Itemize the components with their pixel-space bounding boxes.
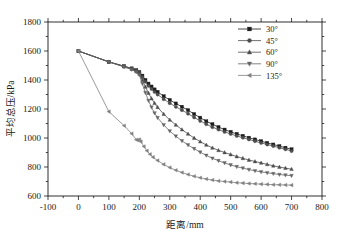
series-45deg [77,49,293,152]
y-axis-title: 平均总压/kPa [5,80,16,138]
legend-label: 30° [266,24,278,34]
series-layer [77,49,294,187]
series-30deg [77,49,293,150]
x-tick-label: 0 [76,202,81,212]
y-axis-ticks [44,22,326,196]
x-tick-label: 200 [133,202,147,212]
y-tick-label: 1800 [23,17,42,27]
plot-frame [48,22,322,196]
x-tick-label: 500 [224,202,238,212]
x-tick-label: 400 [193,202,207,212]
legend-item-45deg[interactable]: 45° [238,36,278,46]
total-pressure-vs-distance-chart: -1000100200300400500600700800 6008001000… [0,0,345,238]
chart-container: -1000100200300400500600700800 6008001000… [0,0,345,238]
y-tick-label: 1000 [23,133,42,143]
legend-item-60deg[interactable]: 60° [238,47,278,57]
x-tick-label: 100 [102,202,116,212]
y-tick-label: 600 [28,191,42,201]
legend-item-30deg[interactable]: 30° [238,24,278,34]
y-tick-label: 1200 [23,104,42,114]
x-axis-ticks [48,18,322,200]
legend-label: 90° [266,59,278,69]
y-tick-label: 1400 [23,75,42,85]
x-tick-label: 700 [285,202,299,212]
series-90deg [77,50,294,178]
y-tick-label: 800 [28,162,42,172]
x-tick-label: 600 [254,202,268,212]
x-tick-label: 800 [315,202,329,212]
legend-label: 60° [266,47,278,57]
x-axis-title: 距离/mm [166,219,204,230]
chart-legend: 30°45°60°90°135° [238,24,282,80]
x-tick-label: -100 [40,202,57,212]
y-axis-tick-labels: 60080010001200140016001800 [23,17,42,201]
series-135deg [77,49,293,187]
legend-item-135deg[interactable]: 135° [238,71,282,81]
y-tick-label: 1600 [23,46,42,56]
legend-label: 45° [266,36,278,46]
x-axis-tick-labels: -1000100200300400500600700800 [40,202,330,212]
series-60deg [77,49,294,171]
legend-item-90deg[interactable]: 90° [238,59,278,69]
x-tick-label: 300 [163,202,177,212]
legend-label: 135° [266,71,282,81]
